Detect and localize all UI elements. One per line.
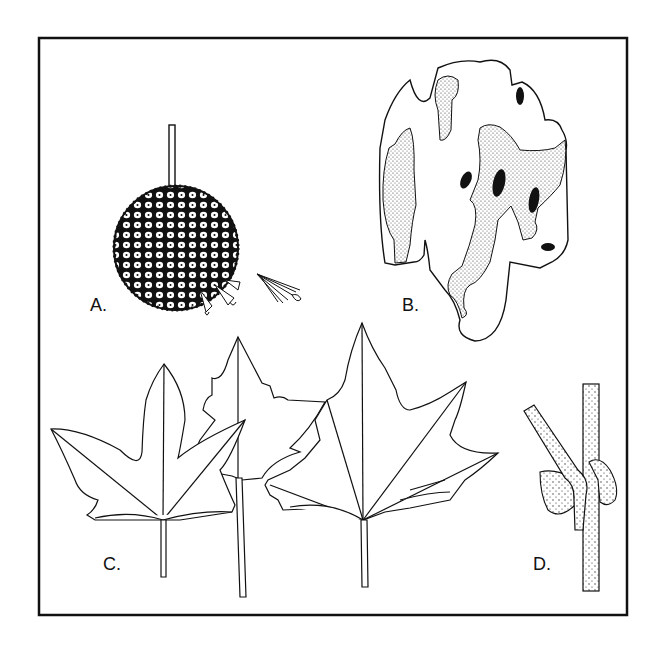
fruit-ball: [114, 125, 301, 315]
seed-achene: [257, 274, 301, 303]
panel-label-b: B.: [402, 296, 419, 314]
leaf-right: [265, 323, 498, 587]
illustration-canvas: [0, 0, 657, 649]
panel-label-c: C.: [103, 555, 121, 573]
fruit-stem: [169, 125, 175, 187]
panel-label-d: D.: [533, 555, 551, 573]
botanical-illustration: A. B. C. D.: [0, 0, 657, 649]
bark-lenticel: [516, 87, 524, 105]
panel-label-a: A.: [90, 296, 107, 314]
